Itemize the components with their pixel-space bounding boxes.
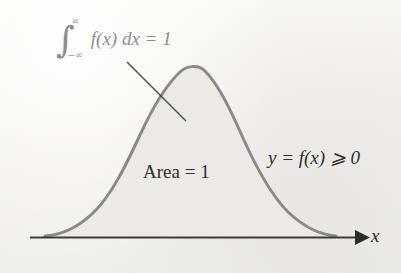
area-label: Area = 1 <box>143 162 210 181</box>
x-axis-arrowhead <box>355 230 370 245</box>
integral-annotation: ∫ ∞ −∞ f(x) dx = 1 <box>56 20 172 57</box>
x-axis-label: x <box>371 226 379 245</box>
integral-upper-limit: ∞ <box>72 17 87 26</box>
integral-lower-limit: −∞ <box>68 51 83 60</box>
integral-integrand: f(x) dx = 1 <box>91 29 172 48</box>
figure-container: ∫ ∞ −∞ f(x) dx = 1 Area = 1 y = f(x) ⩾ 0… <box>0 0 401 273</box>
integral-sign: ∫ <box>56 27 75 53</box>
function-label: y = f(x) ⩾ 0 <box>268 148 360 167</box>
